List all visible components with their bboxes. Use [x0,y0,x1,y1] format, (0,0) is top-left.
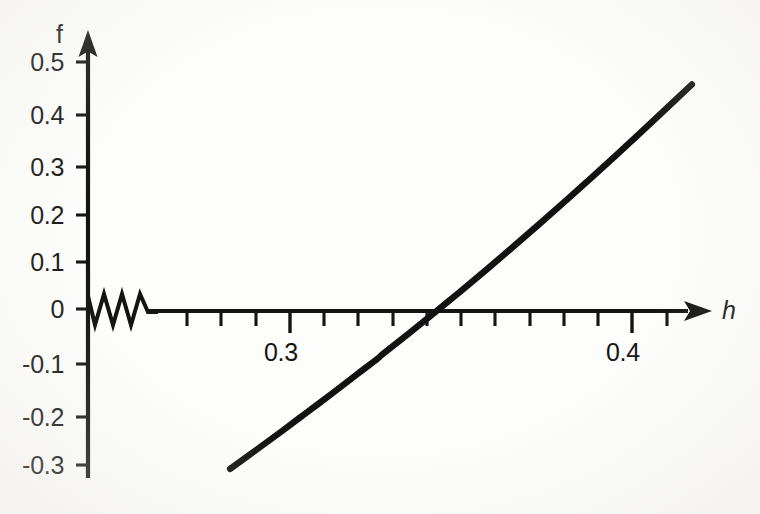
y-tick-label-0.5: 0.5 [8,50,64,75]
y-tick-label-0.4: 0.4 [8,103,64,128]
y-axis-label: f [56,22,63,47]
x-axis-label: h [722,298,736,323]
y-tick-label-0: 0 [8,297,64,322]
x-tick-label-0.3: 0.3 [264,340,298,365]
x-tick-label-0.4: 0.4 [606,340,640,365]
y-tick-label-0.1: 0.1 [8,250,64,275]
function-curve [230,84,692,468]
y-axis-group [76,30,98,478]
y-tick-label-0.3: 0.3 [8,155,64,180]
x-axis-group [88,294,712,333]
plot-svg [0,0,760,514]
y-tick-label--0.2: -0.2 [2,405,64,430]
y-tick-label--0.3: -0.3 [2,453,64,478]
y-tick-label--0.1: -0.1 [2,352,64,377]
x-axis-arrow-icon [684,301,712,321]
y-tick-label-0.2: 0.2 [8,203,64,228]
figure-canvas: 0.5 0.4 0.3 0.2 0.1 0 -0.1 -0.2 -0.3 0.3… [0,0,760,514]
